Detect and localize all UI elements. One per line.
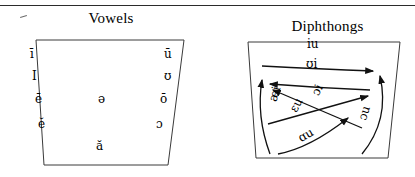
vowels-panel: Vowels ī I ē ĕ ə ă ū ʊ ō ɔ: [8, 10, 198, 172]
diphthong-label: æi: [267, 85, 283, 103]
diphthong-label: iu: [307, 38, 319, 50]
diphthongs-panel-title: Diphthongs: [240, 18, 415, 35]
top-horizontal-rule: [0, 5, 415, 6]
vowel-symbol: ī: [30, 48, 34, 60]
diphthongs-panel: Diphthongs iu ʊi ɔi ɛu æi ɔu ɑu: [240, 18, 415, 168]
vowel-symbol: I: [32, 70, 37, 82]
vowel-symbol: ɔ: [156, 118, 163, 130]
vowel-symbol: ĕ: [38, 118, 45, 130]
diphthong-label: ʊi: [306, 58, 317, 70]
diphthong-trapezoid-and-arrows: [240, 36, 415, 168]
vowel-symbol: ō: [160, 93, 167, 105]
vowel-symbol: ē: [35, 93, 42, 105]
vowel-symbol: ʊ: [164, 70, 171, 82]
vowels-panel-title: Vowels: [16, 10, 206, 27]
vowel-symbol: ă: [96, 140, 103, 152]
vowel-symbol: ə: [98, 93, 105, 105]
vowel-symbol: ū: [164, 48, 172, 60]
